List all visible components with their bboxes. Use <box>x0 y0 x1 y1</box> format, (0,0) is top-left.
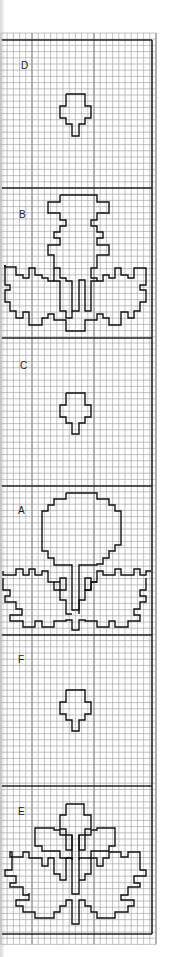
section-label-c: C <box>20 360 27 371</box>
section-label-d: D <box>21 60 28 71</box>
section-label-b: B <box>19 209 26 220</box>
section-frame <box>2 40 152 934</box>
stitch-chart: DBCAFE <box>0 0 170 957</box>
section-label-e: E <box>18 806 25 817</box>
section-label-f: F <box>18 654 24 665</box>
section-label-a: A <box>18 505 25 516</box>
